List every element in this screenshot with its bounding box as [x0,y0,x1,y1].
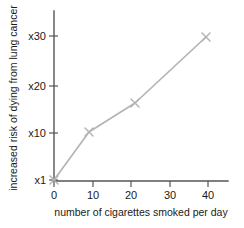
y-tick-label-x30: x30 [28,30,46,42]
y-tick-label-x20: x20 [28,80,46,92]
x-tick-label-40: 40 [202,189,214,201]
y-axis-title: increased risk of dying from lung cancer [7,5,19,191]
x-tick-label-0: 0 [51,189,57,201]
x-tick-label-10: 10 [87,189,99,201]
line-chart: x30 x20 x10 x1 0 10 20 30 40 number of c… [0,0,244,228]
y-tick-label-x1: x1 [34,174,46,186]
x-tick-label-30: 30 [164,189,176,201]
x-tick-label-20: 20 [125,189,137,201]
chart-container: x30 x20 x10 x1 0 10 20 30 40 number of c… [0,0,244,228]
y-tick-label-x10: x10 [28,127,46,139]
x-axis-title: number of cigarettes smoked per day [54,206,228,218]
